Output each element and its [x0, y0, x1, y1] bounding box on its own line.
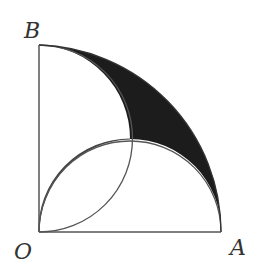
label-o: O: [14, 239, 32, 264]
label-a: A: [228, 235, 246, 260]
label-b: B: [23, 18, 40, 43]
quarter-circle-diagram: B O A: [0, 0, 256, 267]
crescent-region: [39, 45, 221, 232]
